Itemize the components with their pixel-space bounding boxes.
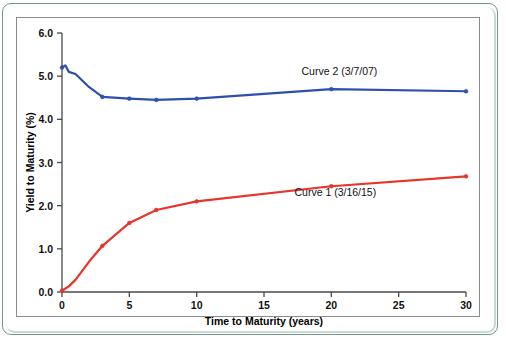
y-axis-tick-label: 3.0	[38, 157, 53, 169]
y-axis-tick-label: 1.0	[38, 243, 53, 255]
series-marker	[154, 208, 158, 212]
x-axis-title: Time to Maturity (years)	[205, 315, 323, 327]
x-axis-tick-label: 25	[393, 299, 405, 311]
series-label-1: Curve 1 (3/16/15)	[295, 186, 377, 198]
series-marker	[195, 97, 199, 101]
y-axis-tick-label: 0.0	[38, 286, 53, 298]
x-axis-tick-label: 15	[258, 299, 270, 311]
series-line-1	[62, 176, 466, 290]
series-marker	[101, 244, 105, 248]
series-marker	[60, 289, 64, 293]
y-axis-title: Yield to Maturity (%)	[24, 112, 36, 213]
y-axis-tick-label: 6.0	[38, 27, 53, 39]
y-axis-tick-label: 4.0	[38, 113, 53, 125]
series-marker	[60, 66, 64, 70]
chart-svg: 0.01.02.03.04.05.06.0051015202530Time to…	[0, 0, 506, 341]
series-marker	[329, 87, 333, 91]
series-marker	[154, 98, 158, 102]
series-marker	[127, 97, 131, 101]
x-axis-tick-label: 20	[325, 299, 337, 311]
yield-curve-figure: 0.01.02.03.04.05.06.0051015202530Time to…	[0, 0, 506, 341]
series-marker	[464, 174, 468, 178]
x-axis-tick-label: 0	[59, 299, 65, 311]
x-axis-tick-label: 10	[191, 299, 203, 311]
series-marker	[464, 89, 468, 93]
x-axis-tick-label: 30	[460, 299, 472, 311]
series-line-0	[62, 65, 466, 100]
y-axis-tick-label: 2.0	[38, 200, 53, 212]
series-label-0: Curve 2 (3/7/07)	[301, 65, 377, 77]
y-axis-tick-label: 5.0	[38, 70, 53, 82]
x-axis-tick-label: 5	[126, 299, 132, 311]
series-marker	[127, 221, 131, 225]
series-marker	[195, 199, 199, 203]
series-marker	[101, 95, 105, 99]
